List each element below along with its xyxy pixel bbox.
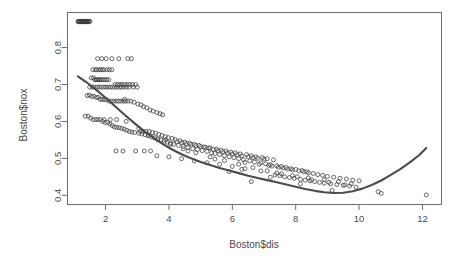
x-tick-label: 12 [417,213,428,224]
x-tick-label: 4 [166,213,171,224]
x-tick-label: 2 [103,213,108,224]
plot-background [0,0,468,266]
y-tick-label: 0.6 [52,115,63,128]
plot-root: 24681012 0.40.50.60.70.8 Boston$dis Bost… [0,0,468,266]
x-tick-label: 6 [230,213,235,224]
x-axis-title: Boston$dis [229,239,278,250]
y-tick-label: 0.7 [52,78,63,91]
x-tick-label: 8 [293,213,298,224]
x-tick-label: 10 [354,213,365,224]
y-tick-label: 0.8 [52,41,63,54]
y-tick-label: 0.5 [52,152,63,165]
scatter-plot: 24681012 0.40.50.60.70.8 Boston$dis Bost… [0,0,468,266]
y-tick-label: 0.4 [52,189,63,202]
y-axis-title: Boston$nox [18,89,29,142]
